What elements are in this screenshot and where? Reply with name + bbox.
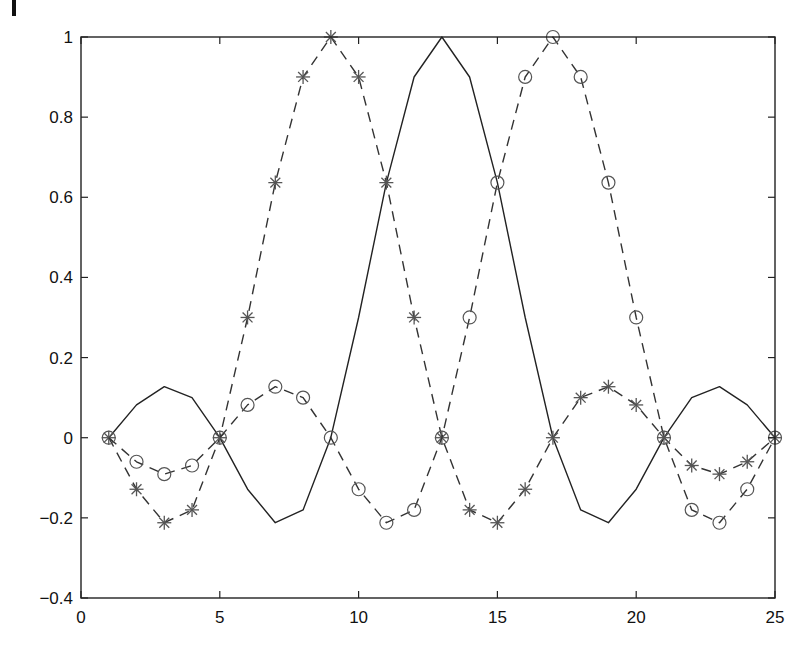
y-tick-label: 0 [64, 429, 73, 448]
y-tick-label: −0.2 [39, 509, 73, 528]
y-tick-label: 0.4 [49, 268, 73, 287]
x-tick-label: 10 [349, 608, 368, 627]
asterisk-marker [685, 458, 699, 472]
y-tick-label: 0.6 [49, 188, 73, 207]
asterisk-marker [712, 467, 726, 481]
asterisk-marker [185, 503, 199, 517]
x-tick-label: 0 [76, 608, 85, 627]
asterisk-marker [463, 503, 477, 517]
asterisk-marker [629, 398, 643, 412]
series-line-circles [109, 37, 775, 523]
asterisk-marker [518, 482, 532, 496]
asterisk-marker [574, 391, 588, 405]
asterisk-marker [740, 455, 754, 469]
line-chart: 0510152025 −0.4−0.200.20.40.60.81 [0, 0, 810, 656]
circle-marker [741, 483, 754, 496]
y-tick-label: 0.2 [49, 349, 73, 368]
y-tick-label: −0.4 [39, 589, 73, 608]
asterisk-marker [130, 482, 144, 496]
asterisk-marker [296, 70, 310, 84]
x-tick-label: 20 [627, 608, 646, 627]
series-line-solid [109, 37, 775, 523]
circle-marker [186, 459, 199, 472]
asterisk-marker [157, 516, 171, 530]
y-tick-label: 1 [64, 28, 73, 47]
series-layer [102, 30, 782, 530]
circle-marker [408, 503, 421, 516]
x-tick-label: 25 [766, 608, 785, 627]
asterisk-marker [352, 70, 366, 84]
asterisk-marker [241, 310, 255, 324]
asterisk-marker [379, 176, 393, 190]
x-tick-label: 5 [215, 608, 224, 627]
x-tick-label: 15 [488, 608, 507, 627]
series-line-stars [109, 37, 775, 523]
circle-marker [158, 468, 171, 481]
asterisk-marker [268, 176, 282, 190]
circle-marker [574, 70, 587, 83]
circle-marker [463, 311, 476, 324]
asterisk-marker [546, 431, 560, 445]
asterisk-marker [407, 310, 421, 324]
y-tick-label: 0.8 [49, 108, 73, 127]
asterisk-marker [601, 380, 615, 394]
asterisk-marker [490, 516, 504, 530]
x-axis: 0510152025 [76, 37, 784, 627]
